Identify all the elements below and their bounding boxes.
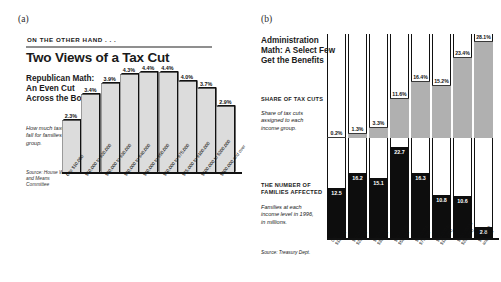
chart-b-share-zone: 28.1% xyxy=(474,34,493,138)
chart-b-section1-body: Share of tax cuts assigned to each incom… xyxy=(261,110,315,132)
chart-b-column-group: 0.2%12.5 xyxy=(327,34,346,238)
chart-b-section2-title: THE NUMBER OF FAMILIES AFFECTED xyxy=(261,182,331,196)
chart-b-families-value-label: 16.2 xyxy=(348,175,367,181)
chart-b-share-zone: 11.6% xyxy=(390,34,409,138)
chart-b-column-group: 16.4%16.3 xyxy=(411,34,430,238)
chart-b-share-value-label: 11.6% xyxy=(390,91,409,97)
chart-b-share-zone: 1.3% xyxy=(348,34,367,138)
chart-a-bar-value-label: 4.3% xyxy=(123,67,135,73)
panel-label-b: (b) xyxy=(261,14,272,24)
chart-b-share-value-label: 28.1% xyxy=(474,34,493,40)
chart-b-families-zone: 12.5 xyxy=(327,138,346,238)
horizontal-rule xyxy=(26,46,212,48)
chart-b-share-zone: 3.3% xyxy=(369,34,388,138)
chart-b-share-bar xyxy=(369,127,388,138)
chart-b-column-group: 1.3%16.2 xyxy=(348,34,367,238)
chart-b-families-value-label: 16.3 xyxy=(411,175,430,181)
chart-b-column-group: 11.6%22.7 xyxy=(390,34,409,238)
chart-b-share-bar xyxy=(474,41,493,138)
chart-b-section2-body: Families at each income level in 1996, i… xyxy=(261,204,317,226)
chart-b-subhead: Administration Math: A Select Few Get th… xyxy=(261,36,335,67)
chart-a-plot-area: 2.3%3.4%3.9%4.3%4.4%4.4%4.0%3.7%2.9% xyxy=(62,58,238,172)
chart-b-families-value-label: 22.7 xyxy=(390,149,409,155)
chart-a-bar-value-label: 2.9% xyxy=(219,99,231,105)
chart-a-bar-value-label: 3.4% xyxy=(84,87,96,93)
chart-b-families-value-label: 10.8 xyxy=(432,197,451,203)
chart-b-share-zone: 16.4% xyxy=(411,34,430,138)
chart-b-share-value-label: 23.4% xyxy=(453,50,472,56)
chart-b-share-zone: 23.4% xyxy=(453,34,472,138)
chart-b-share-bar xyxy=(390,98,409,138)
chart-b-share-zone: 0.2% xyxy=(327,34,346,138)
figure-panel-b: (b) Administration Math: A Select Few Ge… xyxy=(248,0,501,282)
chart-a-bar-value-label: 3.9% xyxy=(103,76,115,82)
chart-a-bar-value-label: 4.0% xyxy=(181,74,193,80)
chart-b-column-group: 3.3%15.1 xyxy=(369,34,388,238)
chart-a-bar-value-label: 3.7% xyxy=(200,81,212,87)
chart-a-bar-value-label: 4.4% xyxy=(142,65,154,71)
panel-label-a: (a) xyxy=(18,14,29,24)
kicker-text: ON THE OTHER HAND . . . xyxy=(27,36,116,43)
chart-b-share-value-label: 15.2% xyxy=(432,78,451,84)
chart-b-families-value-label: 15.1 xyxy=(369,180,388,186)
figure-panel-a: (a) ON THE OTHER HAND . . . Two Views of… xyxy=(0,0,248,282)
chart-b-share-value-label: 0.2% xyxy=(327,130,346,136)
chart-a-bar-value-label: 4.4% xyxy=(161,65,173,71)
chart-b-column-group: 15.2%10.8 xyxy=(432,34,451,238)
chart-b-plot-area: 0.2%12.51.3%16.23.3%15.111.6%22.716.4%16… xyxy=(327,34,495,238)
chart-b-families-value-label: 12.5 xyxy=(327,190,346,196)
chart-a-bar-value-label: 2.3% xyxy=(65,113,77,119)
chart-b-share-value-label: 16.4% xyxy=(411,74,430,80)
chart-b-column-group: 23.4%10.6 xyxy=(453,34,472,238)
chart-b-section1-title: SHARE OF TAX CUTS xyxy=(261,96,331,103)
chart-b-families-value-label: 10.6 xyxy=(453,198,472,204)
chart-b-families-zone: 2.8 xyxy=(474,138,493,238)
chart-b-share-bar xyxy=(432,85,451,138)
chart-b-source: Source: Treasury Dept. xyxy=(261,250,311,256)
chart-b-share-zone: 15.2% xyxy=(432,34,451,138)
chart-b-share-bar xyxy=(411,81,430,138)
chart-b-share-bar xyxy=(453,57,472,138)
chart-b-column-group: 28.1%2.8 xyxy=(474,34,493,238)
chart-b-share-value-label: 3.3% xyxy=(369,120,388,126)
chart-b-share-value-label: 1.3% xyxy=(348,126,367,132)
